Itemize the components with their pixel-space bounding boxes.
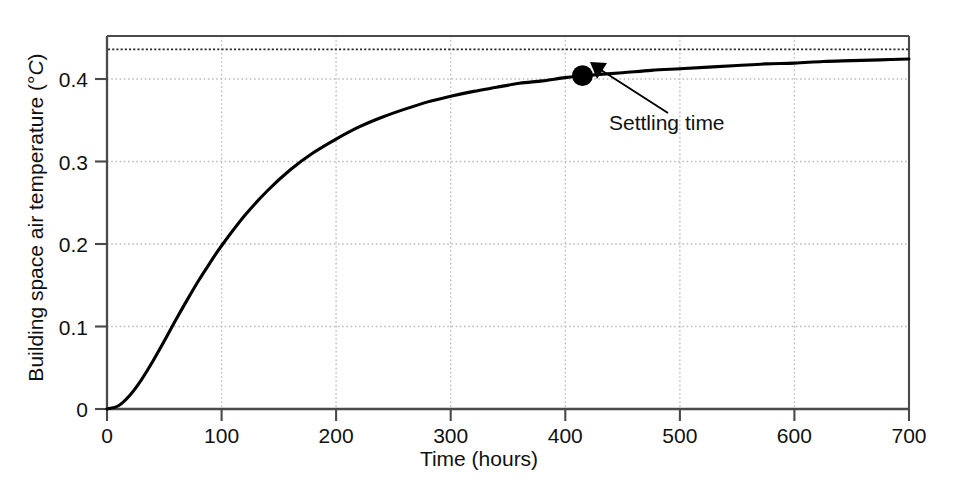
- xtick-label-400: 400: [525, 425, 605, 446]
- settling-time-arrow-line: [601, 70, 668, 113]
- xtick-label-700: 700: [869, 425, 949, 446]
- y-axis-title-unit: C: [24, 60, 47, 75]
- settling-time-label: Settling time: [609, 112, 725, 133]
- y-axis-title: Building space air temperature (°C): [25, 8, 46, 428]
- xtick-label-500: 500: [640, 425, 720, 446]
- y-axis-title-prefix: Building space air temperature (°: [24, 76, 47, 382]
- settling-time-marker[interactable]: [572, 65, 593, 86]
- chart-figure: 0 0.1 0.2 0.3 0.4 0 100 200 300 400 500 …: [0, 0, 958, 490]
- y-axis-title-suffix: ): [24, 53, 47, 60]
- y-axis-title-wrapper: Building space air temperature (°C): [0, 0, 430, 430]
- x-axis-title: Time (hours): [0, 448, 958, 469]
- xtick-label-600: 600: [754, 425, 834, 446]
